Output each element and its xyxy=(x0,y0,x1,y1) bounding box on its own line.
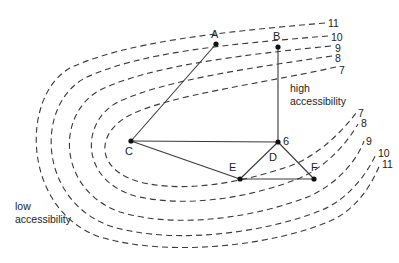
high-accessibility-label-line2: accessibility xyxy=(290,95,347,107)
low-accessibility-label-line1: low xyxy=(15,200,31,212)
contour-label-top-10: 10 xyxy=(331,31,343,43)
contour-label-top-11: 11 xyxy=(328,17,339,29)
node-label-d: D xyxy=(269,151,277,163)
contour-label-top-7: 7 xyxy=(339,64,345,76)
node-label-f: F xyxy=(311,161,318,173)
edge-c-d xyxy=(131,141,278,142)
node-f xyxy=(311,176,316,181)
low-accessibility-label-line2: accessibility xyxy=(15,213,72,225)
node-a xyxy=(213,41,218,46)
network-edges xyxy=(131,44,314,179)
node-c xyxy=(128,138,133,143)
node-e xyxy=(237,176,242,181)
contour-9 xyxy=(69,46,364,220)
contour-label-top-9: 9 xyxy=(335,42,341,54)
accessibility-contours xyxy=(36,23,380,248)
contour-10 xyxy=(51,36,376,236)
node-d xyxy=(275,139,280,144)
edge-d-f xyxy=(278,142,314,179)
contour-label-bottom-8: 8 xyxy=(361,117,367,129)
node-value-label-d: 6 xyxy=(283,135,289,147)
high-accessibility-label-line1: high xyxy=(290,82,310,94)
node-label-a: A xyxy=(211,28,219,40)
node-label-c: C xyxy=(125,145,133,157)
edge-c-e xyxy=(131,141,240,179)
accessibility-network-diagram: ABCD6EF 77889910101111 high accessibilit… xyxy=(0,0,399,263)
contour-labels: 77889910101111 xyxy=(328,17,393,170)
contour-label-bottom-9: 9 xyxy=(366,135,372,147)
node-label-e: E xyxy=(229,161,236,173)
node-b xyxy=(275,44,280,49)
contour-label-bottom-11: 11 xyxy=(382,158,393,170)
node-label-b: B xyxy=(273,30,280,42)
